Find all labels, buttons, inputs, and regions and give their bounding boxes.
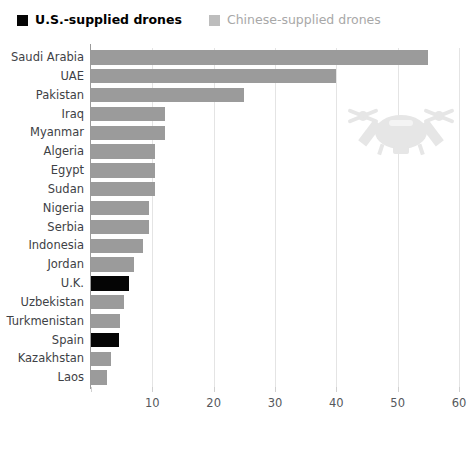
bar-row: Serbia xyxy=(0,218,474,237)
bar xyxy=(91,50,428,64)
bar-chart: 102030405060 Saudi ArabiaUAEPakistanIraq… xyxy=(0,40,474,458)
x-axis-tick xyxy=(91,387,92,392)
plot-area: 102030405060 Saudi ArabiaUAEPakistanIraq… xyxy=(91,48,459,387)
category-label: Spain xyxy=(0,331,84,350)
bar-row: Algeria xyxy=(0,142,474,161)
bar-row: Turkmenistan xyxy=(0,312,474,331)
bar xyxy=(91,88,244,102)
bar-row: Spain xyxy=(0,331,474,350)
x-axis-tick-label: 50 xyxy=(390,396,405,410)
legend-label-chinese: Chinese-supplied drones xyxy=(227,14,381,27)
bar-row: Jordan xyxy=(0,255,474,274)
x-axis-tick-label: 60 xyxy=(452,396,467,410)
category-label: Kazakhstan xyxy=(0,349,84,368)
legend-entry-chinese: Chinese-supplied drones xyxy=(209,14,381,27)
category-label: Saudi Arabia xyxy=(0,48,84,67)
bar-row: Kazakhstan xyxy=(0,349,474,368)
category-label: Myanmar xyxy=(0,123,84,142)
x-axis-tick-label: 10 xyxy=(145,396,160,410)
bar-row: Egypt xyxy=(0,161,474,180)
bar xyxy=(91,257,134,271)
x-axis-tick xyxy=(152,387,153,392)
category-label: Jordan xyxy=(0,255,84,274)
category-label: UAE xyxy=(0,67,84,86)
bar xyxy=(91,239,143,253)
category-label: Laos xyxy=(0,368,84,387)
bar xyxy=(91,370,107,384)
bar-row: Laos xyxy=(0,368,474,387)
category-label: Indonesia xyxy=(0,236,84,255)
x-axis-tick-label: 40 xyxy=(329,396,344,410)
legend-swatch-us-icon xyxy=(17,15,28,26)
bar xyxy=(91,295,124,309)
bar xyxy=(91,201,149,215)
bar xyxy=(91,314,120,328)
bar-row: U.K. xyxy=(0,274,474,293)
bar-row: Saudi Arabia xyxy=(0,48,474,67)
bar-row: Nigeria xyxy=(0,199,474,218)
bar-row: Indonesia xyxy=(0,236,474,255)
legend-swatch-chinese-icon xyxy=(209,15,220,26)
category-label: Nigeria xyxy=(0,199,84,218)
bar-row: Iraq xyxy=(0,105,474,124)
category-label: Iraq xyxy=(0,105,84,124)
category-label: Uzbekistan xyxy=(0,293,84,312)
category-label: Egypt xyxy=(0,161,84,180)
bar xyxy=(91,107,165,121)
x-axis-tick xyxy=(336,387,337,392)
bar xyxy=(91,333,119,347)
bar xyxy=(91,182,155,196)
x-axis-tick xyxy=(459,387,460,392)
category-label: U.K. xyxy=(0,274,84,293)
x-axis-tick-label: 30 xyxy=(268,396,283,410)
bar-row: UAE xyxy=(0,67,474,86)
bar-row: Uzbekistan xyxy=(0,293,474,312)
legend-label-us: U.S.-supplied drones xyxy=(35,14,182,27)
chart-legend: U.S.-supplied drones Chinese-supplied dr… xyxy=(0,0,474,40)
bar xyxy=(91,126,165,140)
x-axis-tick-label: 20 xyxy=(206,396,221,410)
bar xyxy=(91,220,149,234)
x-axis-tick xyxy=(275,387,276,392)
bar xyxy=(91,352,111,366)
legend-entry-us: U.S.-supplied drones xyxy=(17,14,182,27)
bar xyxy=(91,163,155,177)
bar-row: Pakistan xyxy=(0,86,474,105)
bar xyxy=(91,69,336,83)
bar xyxy=(91,144,155,158)
category-label: Pakistan xyxy=(0,86,84,105)
category-label: Algeria xyxy=(0,142,84,161)
bar xyxy=(91,276,129,290)
x-axis-tick xyxy=(398,387,399,392)
category-label: Sudan xyxy=(0,180,84,199)
x-axis-tick xyxy=(214,387,215,392)
category-label: Serbia xyxy=(0,218,84,237)
bar-row: Sudan xyxy=(0,180,474,199)
category-label: Turkmenistan xyxy=(0,312,84,331)
bar-row: Myanmar xyxy=(0,123,474,142)
